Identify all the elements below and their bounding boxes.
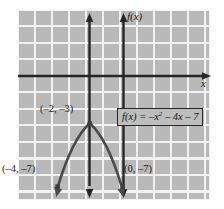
symmetry-arrowhead-top — [86, 13, 94, 22]
symmetry-arrowhead-bottom — [86, 189, 94, 198]
left-point-marker — [55, 184, 60, 189]
vertex-label: (–2, –3) — [40, 104, 73, 115]
equation-lhs: f(x) = — [122, 111, 149, 122]
axis-of-symmetry-line — [86, 13, 94, 198]
vertex-point-marker — [87, 121, 92, 126]
graph-plot-svg — [0, 0, 224, 209]
parabola-figure: (–2, –3) (–4, –7) (0, –7) f(x) x f(x) = … — [0, 0, 224, 209]
right-point-marker — [120, 184, 125, 189]
x-axis-label: x — [201, 78, 206, 89]
fx-axis-label: f(x) — [127, 11, 142, 22]
x-axis — [18, 72, 211, 80]
equation-term2: – 4x – 7 — [162, 111, 198, 122]
right-point-label: (0, –7) — [124, 164, 152, 175]
equation-box: f(x) = –x2 – 4x – 7 — [117, 108, 203, 126]
equation-term1: –x — [149, 111, 159, 122]
left-point-label: (–4, –7) — [2, 164, 35, 175]
